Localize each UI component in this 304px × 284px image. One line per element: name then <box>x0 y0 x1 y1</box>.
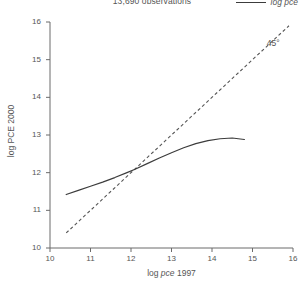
y-axis-tick-label: 14 <box>19 92 41 101</box>
plot-canvas <box>0 0 304 284</box>
x-axis-tick-label: 13 <box>161 254 183 263</box>
y-axis-tick-label: 12 <box>19 168 41 177</box>
annotation-45-degrees: 45° <box>267 38 280 48</box>
y-axis-tick-label: 16 <box>19 17 41 26</box>
x-axis-tick-label: 16 <box>282 254 304 263</box>
x-axis-ticks <box>50 248 293 252</box>
x-axis-tick-label: 11 <box>80 254 102 263</box>
y-axis-tick-label: 11 <box>19 205 41 214</box>
x-axis-tick-label: 14 <box>201 254 223 263</box>
y-axis-tick-label: 13 <box>19 130 41 139</box>
series-line-log-pce <box>66 138 244 195</box>
reference-line-45deg <box>66 26 289 233</box>
y-axis-tick-label: 15 <box>19 55 41 64</box>
y-axis-ticks <box>46 22 50 248</box>
x-axis-tick-label: 15 <box>242 254 264 263</box>
chart-figure: 13,690 observations log pce log PCE 2000… <box>0 0 304 284</box>
x-axis-tick-label: 12 <box>120 254 142 263</box>
x-axis-tick-label: 10 <box>39 254 61 263</box>
y-axis-tick-label: 10 <box>19 243 41 252</box>
